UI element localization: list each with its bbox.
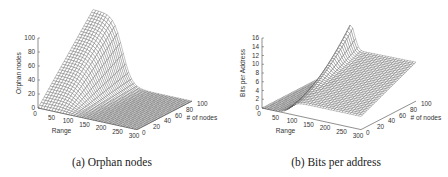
surface-plot-b: 0246810121416Bits per Address05010015020…	[224, 0, 448, 150]
y-tick-label: 20	[153, 123, 161, 130]
z-tick-label: 12	[252, 52, 260, 59]
z-axis-label: Bits per Address	[239, 48, 247, 97]
y-tick-label: 0	[366, 129, 370, 136]
x-tick-label: 50	[272, 114, 280, 121]
z-axis-label: Orphan nodes	[15, 51, 23, 93]
y-tick-label: 80	[186, 106, 194, 113]
x-tick-label: 100	[287, 117, 298, 124]
y-tick-label: 100	[197, 100, 208, 107]
z-tick-label: 4	[255, 87, 259, 94]
x-tick-label: 250	[112, 128, 123, 135]
x-tick-label: 250	[336, 128, 347, 135]
surface-mesh	[262, 25, 416, 116]
z-tick-label: 14	[252, 43, 260, 50]
z-tick-label: 8	[255, 69, 259, 76]
x-tick-label: 200	[320, 124, 331, 131]
z-tick-label: 6	[255, 78, 259, 85]
y-tick-label: 40	[388, 117, 396, 124]
x-tick-label: 100	[63, 117, 74, 124]
z-tick-label: 20	[28, 90, 36, 97]
z-tick-label: 10	[252, 60, 260, 67]
y-axis-label: # of nodes	[187, 114, 218, 121]
z-tick-label: 60	[28, 62, 36, 69]
surface-plot-a: 020406080100Orphan nodes0501001502002503…	[0, 0, 224, 150]
z-tick-label: 40	[28, 76, 36, 83]
x-tick-label: 50	[48, 114, 56, 121]
x-tick-label: 0	[257, 110, 261, 117]
y-tick-label: 40	[164, 117, 172, 124]
chart-orphan-nodes: 020406080100Orphan nodes0501001502002503…	[0, 0, 224, 150]
y-tick-label: 0	[142, 129, 146, 136]
y-tick-label: 80	[410, 106, 418, 113]
x-tick-label: 150	[303, 121, 314, 128]
x-tick-label: 300	[129, 132, 140, 139]
z-tick-label: 80	[28, 48, 36, 55]
y-tick-label: 60	[399, 112, 407, 119]
x-tick-label: 150	[79, 121, 90, 128]
y-tick-label: 100	[421, 100, 432, 107]
z-tick-label: 100	[24, 34, 35, 41]
caption-a: (a) Orphan nodes	[0, 150, 224, 174]
y-axis-label: # of nodes	[411, 114, 442, 121]
z-tick-label: 2	[255, 95, 259, 102]
x-tick-label: 0	[33, 110, 37, 117]
surface-mesh	[38, 10, 192, 130]
x-tick-label: 200	[96, 124, 107, 131]
chart-bits-per-address: 0246810121416Bits per Address05010015020…	[224, 0, 448, 150]
y-tick-label: 20	[377, 123, 385, 130]
y-tick-label: 60	[175, 112, 183, 119]
caption-b: (b) Bits per address	[224, 150, 448, 174]
x-axis-label: Range	[276, 127, 296, 135]
z-tick-label: 16	[252, 34, 260, 41]
x-axis-label: Range	[52, 127, 72, 135]
x-tick-label: 300	[353, 132, 364, 139]
